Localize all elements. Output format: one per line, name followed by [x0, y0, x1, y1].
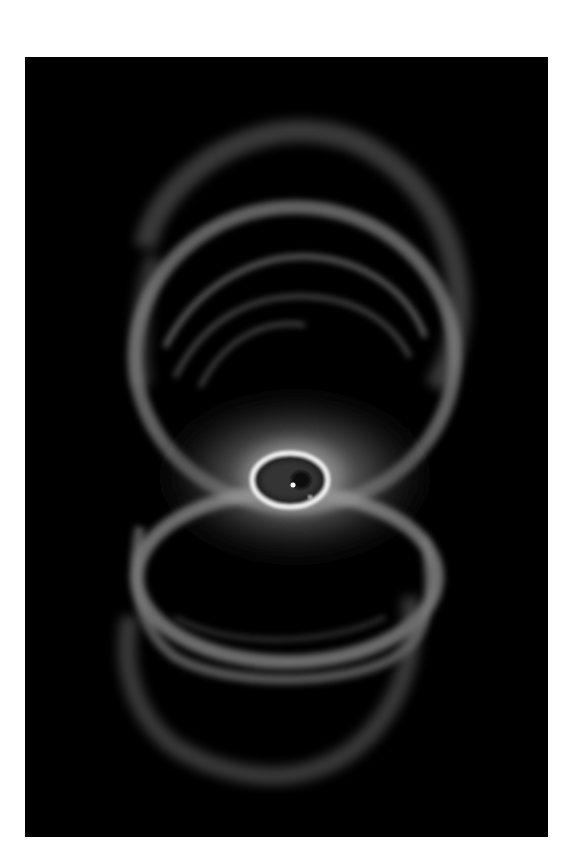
central-star [291, 483, 296, 488]
central-ring [233, 435, 353, 519]
nebula-illustration [25, 57, 548, 837]
companion-star [308, 495, 312, 499]
nebula-photo [25, 57, 548, 837]
